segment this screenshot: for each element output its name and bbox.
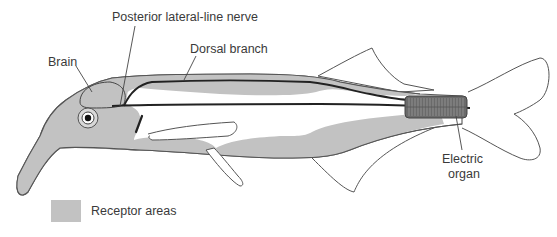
eye-icon [78,108,98,128]
legend-swatch-receptor [51,200,81,222]
label-electric-line1: Electric [442,152,483,166]
legend-label-receptor: Receptor areas [91,204,176,218]
label-dorsal-branch: Dorsal branch [190,42,268,56]
label-electric-line2: organ [448,167,480,181]
label-brain: Brain [48,55,77,69]
caudal-fin [462,58,549,160]
label-posterior-nerve: Posterior lateral-line nerve [112,10,258,24]
leader-brain [76,66,92,92]
electric-organ [405,96,467,118]
legend: Receptor areas [51,200,176,222]
